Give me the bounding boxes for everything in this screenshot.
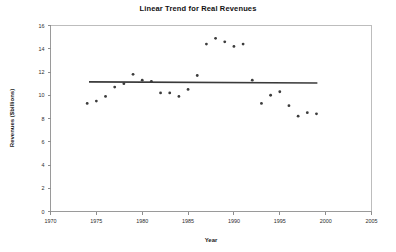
y-tick-label: 6 [42,139,45,145]
y-tick-label: 16 [39,23,45,29]
x-tick-label: 1995 [274,218,286,224]
y-tick-label: 8 [42,116,45,122]
y-tick-group: 0246810121416 [39,23,51,215]
chart-container: Linear Trend for Real Revenues 024681012… [0,0,396,252]
data-point [269,94,272,97]
x-tick-group: 19701975198019851990199520002005 [45,212,378,224]
x-axis-title: Year [205,237,218,243]
data-point [178,95,181,98]
plot-frame [50,26,372,212]
x-tick-label: 1975 [90,218,102,224]
data-point [315,112,318,115]
y-tick-label: 2 [42,185,45,191]
data-point [132,73,135,76]
x-tick-label: 1970 [45,218,57,224]
data-point [297,115,300,118]
x-tick-label: 1990 [228,218,240,224]
data-point [214,37,217,40]
y-tick-label: 0 [42,209,45,215]
x-tick-label: 2000 [320,218,332,224]
x-tick-label: 2005 [366,218,378,224]
data-point [196,74,199,77]
x-tick-label: 1985 [182,218,194,224]
data-point [260,102,263,105]
data-point [104,95,107,98]
data-point [288,104,291,107]
data-point [233,45,236,48]
data-point [113,86,116,89]
data-point [278,90,281,93]
y-tick-label: 4 [42,162,45,168]
data-point [242,43,245,46]
data-point [205,43,208,46]
data-point [95,100,98,103]
data-point [223,40,226,43]
y-axis-title: Revenues ($billions) [9,89,15,147]
data-point [168,92,171,95]
y-tick-label: 12 [39,69,45,75]
data-point [251,79,254,82]
data-point-group [86,37,318,118]
scatter-plot: 0246810121416 19701975198019851990199520… [0,0,396,252]
x-tick-label: 1980 [136,218,148,224]
y-tick-label: 14 [39,46,45,52]
data-point [306,111,309,114]
data-point [86,102,89,105]
data-point [159,92,162,95]
data-point [141,79,144,82]
data-point [187,88,190,91]
y-tick-label: 10 [39,92,45,98]
